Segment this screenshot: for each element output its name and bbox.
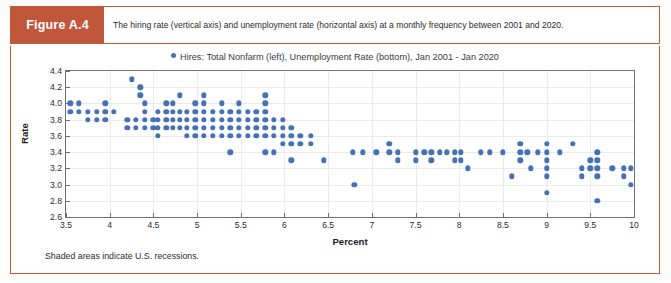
scatter-point xyxy=(544,141,549,146)
scatter-point xyxy=(518,141,523,146)
scatter-point xyxy=(142,117,147,122)
scatter-point xyxy=(124,125,129,130)
figure-number-tag: Figure A.4 xyxy=(11,7,104,43)
y-tick-label: 3.8 xyxy=(50,115,62,125)
scatter-point xyxy=(271,117,276,122)
scatter-point xyxy=(444,149,449,154)
scatter-point xyxy=(201,93,206,98)
scatter-point xyxy=(465,166,470,171)
y-gridline xyxy=(66,136,634,137)
x-tick-mark xyxy=(634,213,635,217)
x-tick-label: 8 xyxy=(457,220,462,230)
y-gridline xyxy=(66,103,634,104)
scatter-point xyxy=(142,125,147,130)
scatter-point xyxy=(289,158,294,163)
scatter-point xyxy=(528,166,533,171)
scatter-point xyxy=(595,166,600,171)
scatter-point xyxy=(170,109,175,114)
scatter-point xyxy=(177,125,182,130)
scatter-point xyxy=(164,125,169,130)
y-gridline xyxy=(66,185,634,186)
scatter-point xyxy=(219,125,224,130)
scatter-point xyxy=(85,109,90,114)
scatter-point xyxy=(422,149,427,154)
scatter-point xyxy=(170,125,175,130)
scatter-point xyxy=(579,166,584,171)
scatter-point xyxy=(263,125,268,130)
scatter-point xyxy=(609,166,614,171)
scatter-point xyxy=(544,166,549,171)
x-tick-mark xyxy=(110,213,111,217)
y-tick-mark xyxy=(66,71,70,72)
scatter-point xyxy=(184,125,189,130)
y-tick-label: 2.8 xyxy=(50,196,62,206)
x-gridline xyxy=(503,71,504,217)
scatter-point xyxy=(138,93,143,98)
x-tick-mark xyxy=(66,213,67,217)
y-tick-label: 4.2 xyxy=(50,82,62,92)
scatter-point xyxy=(458,158,463,163)
scatter-point xyxy=(263,149,268,154)
scatter-point xyxy=(271,149,276,154)
scatter-point xyxy=(177,117,182,122)
x-gridline xyxy=(197,71,198,217)
scatter-point xyxy=(201,133,206,138)
scatter-point xyxy=(595,158,600,163)
scatter-point xyxy=(124,117,129,122)
scatter-point xyxy=(458,149,463,154)
scatter-point xyxy=(164,101,169,106)
scatter-point xyxy=(210,133,215,138)
y-tick-mark xyxy=(66,201,70,202)
scatter-point xyxy=(263,117,268,122)
x-axis-title: Percent xyxy=(65,236,635,247)
x-tick-mark xyxy=(503,213,504,217)
chart-panel: Hires: Total Nonfarm (left), Unemploymen… xyxy=(10,46,660,274)
scatter-point xyxy=(155,125,160,130)
scatter-point xyxy=(164,109,169,114)
scatter-point xyxy=(595,174,600,179)
x-tick-label: 5.5 xyxy=(235,220,247,230)
x-tick-mark xyxy=(241,213,242,217)
scatter-point xyxy=(142,101,147,106)
x-tick-mark xyxy=(153,213,154,217)
scatter-point xyxy=(210,109,215,114)
scatter-point xyxy=(395,158,400,163)
chart-legend: Hires: Total Nonfarm (left), Unemploymen… xyxy=(11,51,659,62)
scatter-point xyxy=(588,158,593,163)
scatter-point xyxy=(297,141,302,146)
scatter-point xyxy=(254,109,259,114)
scatter-point xyxy=(201,109,206,114)
scatter-point xyxy=(579,174,584,179)
y-axis-title: Rate xyxy=(19,123,30,144)
scatter-point xyxy=(94,117,99,122)
scatter-point xyxy=(111,109,116,114)
legend-label: Hires: Total Nonfarm (left), Unemploymen… xyxy=(180,52,499,62)
figure-caption-text: The hiring rate (vertical axis) and unem… xyxy=(104,7,659,43)
scatter-point xyxy=(518,158,523,163)
scatter-point xyxy=(184,109,189,114)
x-gridline xyxy=(328,71,329,217)
x-tick-mark xyxy=(372,213,373,217)
x-tick-mark xyxy=(459,213,460,217)
scatter-point xyxy=(525,149,530,154)
scatter-point xyxy=(164,117,169,122)
y-tick-mark xyxy=(66,120,70,121)
x-tick-label: 6.5 xyxy=(322,220,334,230)
scatter-point xyxy=(219,101,224,106)
x-gridline xyxy=(110,71,111,217)
scatter-point xyxy=(245,109,250,114)
scatter-point xyxy=(245,117,250,122)
y-tick-label: 3.6 xyxy=(50,131,62,141)
scatter-point xyxy=(429,149,434,154)
x-tick-label: 6 xyxy=(282,220,287,230)
scatter-point xyxy=(155,133,160,138)
scatter-point xyxy=(452,149,457,154)
y-gridline xyxy=(66,201,634,202)
scatter-point xyxy=(228,133,233,138)
figure-footnote: Shaded areas indicate U.S. recessions. xyxy=(45,251,199,261)
scatter-point xyxy=(138,85,143,90)
scatter-point xyxy=(621,166,626,171)
scatter-point xyxy=(201,125,206,130)
scatter-point xyxy=(254,125,259,130)
x-tick-label: 9 xyxy=(544,220,549,230)
